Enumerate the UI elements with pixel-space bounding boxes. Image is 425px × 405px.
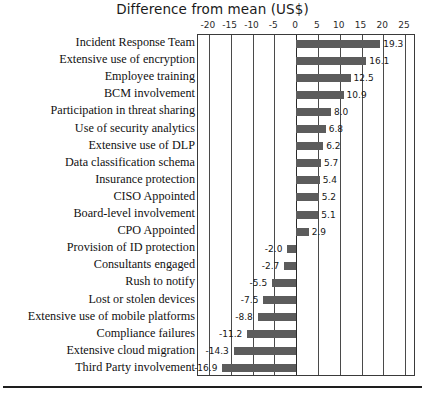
bar — [296, 159, 321, 167]
bar — [272, 279, 296, 287]
bar-value-label: 5.2 — [322, 191, 336, 203]
x-tick-label: -5 — [269, 20, 278, 30]
bar-value-label: 6.2 — [326, 140, 340, 152]
bar-value-label: -8.8 — [235, 311, 253, 323]
bar-value-label: 5.7 — [324, 157, 338, 169]
x-tick-label: 25 — [398, 20, 409, 30]
gridline — [209, 35, 210, 375]
x-tick-label: 5 — [314, 20, 320, 30]
gridline — [274, 35, 275, 375]
bar-value-label: -2.0 — [265, 243, 283, 255]
bar — [284, 262, 296, 270]
gridline — [362, 35, 363, 375]
bar — [296, 176, 320, 184]
bar — [287, 245, 296, 253]
bar — [296, 193, 319, 201]
x-axis-tick-labels: -20-15-10-50510152025 — [0, 20, 425, 34]
bar-value-label: 6.8 — [329, 123, 343, 135]
bar — [296, 228, 309, 236]
bar — [296, 211, 318, 219]
category-axis-labels: Incident Response TeamExtensive use of e… — [0, 34, 197, 376]
bar-value-label: 16.1 — [369, 55, 389, 67]
gridline — [383, 35, 384, 375]
bar-chart: Difference from mean (US$) -20-15-10-505… — [0, 0, 425, 405]
bar — [296, 40, 380, 48]
bar-value-label: -14.3 — [205, 345, 228, 357]
x-tick-label: -10 — [244, 20, 259, 30]
bar — [222, 364, 296, 372]
bottom-rule-divider — [3, 386, 422, 388]
bar-value-label: 10.9 — [347, 89, 367, 101]
bar-value-label: -11.2 — [219, 328, 242, 340]
zero-line — [296, 35, 297, 375]
bar-value-label: 12.5 — [354, 72, 374, 84]
bar — [296, 108, 331, 116]
bar-value-label: 5.1 — [321, 209, 335, 221]
plot-area: 19.316.112.510.98.06.86.25.75.45.25.12.9… — [197, 34, 415, 376]
x-tick-label: 10 — [333, 20, 344, 30]
bar — [234, 347, 296, 355]
bar — [296, 142, 323, 150]
x-tick-label: -20 — [201, 20, 216, 30]
bar-value-label: -16.9 — [194, 362, 217, 374]
bar-value-label: 5.4 — [323, 174, 337, 186]
gridline — [405, 35, 406, 375]
gridline — [340, 35, 341, 375]
bar — [296, 91, 344, 99]
bar — [296, 74, 351, 82]
bar-value-label: -5.5 — [250, 277, 268, 289]
bar-value-label: -2.7 — [262, 260, 280, 272]
x-tick-label: 0 — [292, 20, 298, 30]
gridline — [318, 35, 319, 375]
x-tick-label: 20 — [377, 20, 388, 30]
bar-value-label: 8.0 — [334, 106, 348, 118]
bar-value-label: 2.9 — [312, 226, 326, 238]
chart-title: Difference from mean (US$) — [0, 1, 425, 17]
bar — [296, 57, 366, 65]
bar — [247, 330, 296, 338]
x-tick-label: 15 — [355, 20, 366, 30]
bar — [258, 313, 296, 321]
bar-value-label: 19.3 — [383, 38, 403, 50]
bar — [296, 125, 326, 133]
bar-value-label: -7.5 — [241, 294, 259, 306]
gridline — [231, 35, 232, 375]
x-tick-label: -15 — [222, 20, 237, 30]
category-label: Third Party involvement — [75, 358, 195, 377]
gridline — [253, 35, 254, 375]
bar — [263, 296, 296, 304]
